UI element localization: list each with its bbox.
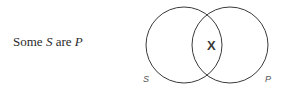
circle-p bbox=[192, 7, 268, 83]
venn-diagram: X S P bbox=[0, 0, 284, 86]
label-s: S bbox=[143, 74, 149, 84]
label-p: P bbox=[265, 74, 271, 84]
existence-mark: X bbox=[207, 38, 216, 53]
